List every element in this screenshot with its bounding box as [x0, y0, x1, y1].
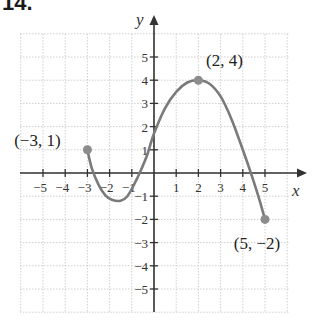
y-tick-label: 3	[142, 96, 149, 111]
x-tick-label: −5	[33, 180, 47, 195]
x-axis-label: x	[291, 181, 300, 200]
function-graph: xy −5−4−3−2−11234554321−1−2−3−4−5 (−3, 1…	[0, 0, 317, 332]
x-tick-label: 3	[217, 180, 224, 195]
y-tick-label: −5	[134, 282, 148, 297]
point-label: (2, 4)	[206, 51, 243, 70]
x-tick-label: 1	[173, 180, 180, 195]
y-tick-label: −2	[134, 212, 148, 227]
y-axis-arrow-icon	[150, 15, 159, 25]
y-tick-label: 4	[142, 73, 149, 88]
endpoint-marker	[261, 215, 270, 224]
x-tick-label: 5	[262, 180, 269, 195]
endpoint-marker	[83, 145, 92, 154]
axes: xy	[20, 10, 307, 312]
x-axis-arrow-icon	[297, 169, 307, 178]
x-tick-label: −4	[55, 180, 69, 195]
y-tick-label: 2	[142, 120, 149, 135]
endpoint-marker	[194, 76, 203, 85]
y-tick-label: −4	[134, 259, 148, 274]
x-tick-label: 4	[240, 180, 247, 195]
point-label: (5, −2)	[234, 234, 280, 253]
y-tick-label: −1	[134, 189, 148, 204]
x-tick-label: 2	[195, 180, 202, 195]
y-tick-label: 5	[142, 50, 149, 65]
y-axis-label: y	[134, 10, 144, 29]
x-tick-label: −3	[78, 180, 92, 195]
y-tick-label: −3	[134, 236, 148, 251]
point-label: (−3, 1)	[14, 131, 60, 150]
